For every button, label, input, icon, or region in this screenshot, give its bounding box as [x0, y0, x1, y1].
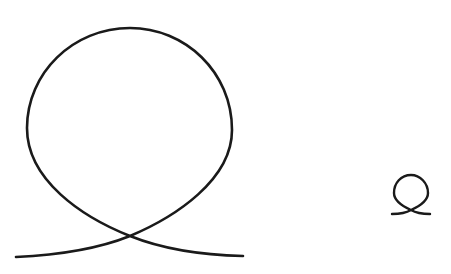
figure-canvas — [0, 0, 451, 274]
small-loop — [392, 175, 430, 214]
large-loop — [16, 28, 243, 257]
